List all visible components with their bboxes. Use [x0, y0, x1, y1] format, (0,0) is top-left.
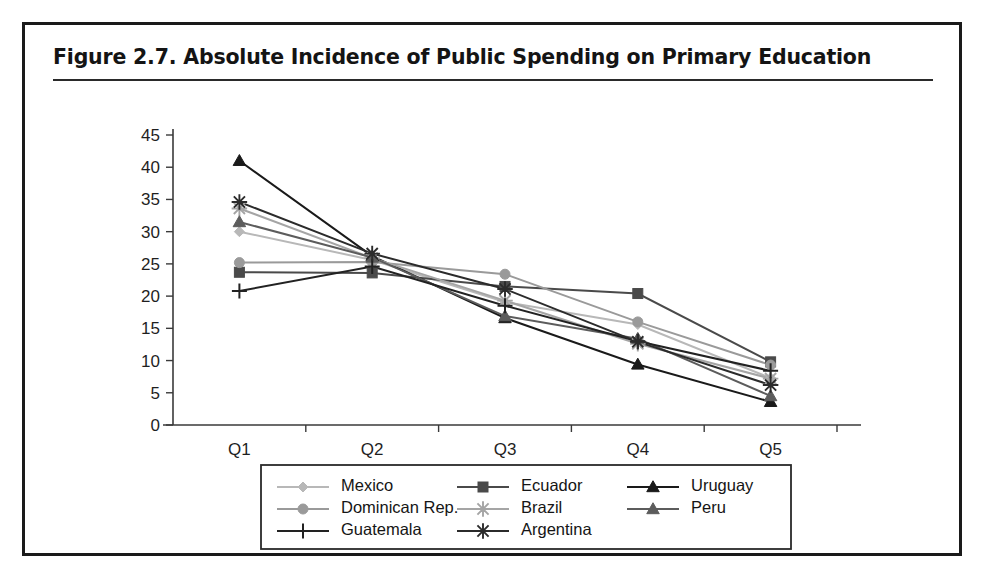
title-divider	[53, 79, 933, 81]
legend-label: Mexico	[341, 476, 393, 494]
data-point-marker	[475, 501, 491, 517]
y-tick-label: 20	[141, 287, 160, 306]
y-tick-label: 35	[141, 190, 160, 209]
data-point-marker	[298, 504, 308, 514]
legend-label: Guatemala	[341, 520, 423, 538]
x-tick-label: Q3	[494, 440, 517, 459]
data-point-marker	[475, 523, 491, 539]
y-axis-ticks: 051015202530354045	[141, 126, 173, 435]
data-point-marker	[232, 283, 247, 298]
line-chart: 051015202530354045 Q1Q2Q3Q4Q5 MexicoEcua…	[25, 87, 959, 555]
legend-label: Ecuador	[521, 476, 583, 494]
y-tick-label: 0	[151, 416, 160, 435]
figure-title: Figure 2.7. Absolute Incidence of Public…	[53, 45, 913, 69]
data-point-marker	[364, 246, 380, 261]
data-point-marker	[630, 334, 646, 350]
data-point-marker	[478, 482, 488, 492]
data-point-marker	[497, 281, 513, 297]
data-point-marker	[234, 258, 244, 268]
figure-frame: Figure 2.7. Absolute Incidence of Public…	[22, 22, 962, 556]
x-tick-label: Q4	[626, 440, 649, 459]
chart-plot-area: 051015202530354045 Q1Q2Q3Q4Q5 MexicoEcua…	[25, 87, 959, 555]
y-tick-label: 30	[141, 223, 160, 242]
y-tick-label: 45	[141, 126, 160, 145]
y-tick-label: 10	[141, 352, 160, 371]
legend-label: Brazil	[521, 498, 562, 516]
x-tick-label: Q2	[361, 440, 384, 459]
x-tick-label: Q5	[759, 440, 782, 459]
legend-label: Uruguay	[691, 476, 754, 494]
data-point-marker	[500, 269, 510, 279]
y-tick-label: 5	[151, 384, 160, 403]
data-point-marker	[234, 267, 244, 277]
data-point-marker	[233, 216, 246, 227]
data-point-marker	[232, 194, 248, 210]
data-point-marker	[633, 289, 643, 299]
x-tick-label: Q1	[228, 440, 251, 459]
legend-label: Dominican Rep.	[341, 498, 458, 516]
y-tick-label: 25	[141, 255, 160, 274]
data-point-marker	[633, 317, 643, 327]
legend-label: Argentina	[521, 520, 592, 538]
data-point-marker	[233, 155, 246, 166]
x-axis-ticks: Q1Q2Q3Q4Q5	[228, 425, 837, 459]
y-tick-label: 15	[141, 319, 160, 338]
chart-legend: MexicoEcuadorUruguayDominican Rep.Brazil…	[261, 465, 791, 549]
y-tick-label: 40	[141, 158, 160, 177]
data-point-marker	[763, 377, 779, 393]
data-point-marker	[234, 227, 244, 237]
series-markers	[232, 155, 779, 407]
legend-label: Peru	[691, 498, 726, 516]
